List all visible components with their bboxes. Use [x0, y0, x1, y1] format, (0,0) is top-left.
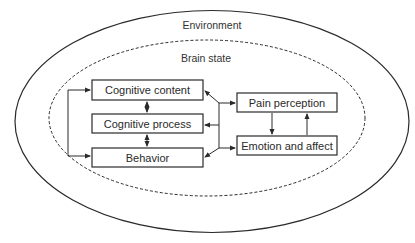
pain-model-diagram: Environment Brain state Cognitive conten…: [0, 0, 415, 243]
arrow-hub-to-cognitive-content: [205, 91, 219, 103]
node-behavior: Behavior: [92, 148, 203, 167]
pain-perception-label: Pain perception: [249, 97, 325, 109]
brain-state-label: Brain state: [181, 52, 231, 64]
cognitive-process-label: Cognitive process: [104, 118, 192, 130]
arrow-left-bracket-bottom: [68, 123, 90, 156]
behavior-label: Behavior: [126, 152, 170, 164]
node-cognitive-content: Cognitive content: [92, 80, 203, 100]
node-cognitive-process: Cognitive process: [92, 114, 203, 133]
node-pain-perception: Pain perception: [237, 93, 337, 112]
cognitive-content-label: Cognitive content: [105, 84, 190, 96]
arrow-hub-to-behavior: [205, 148, 219, 157]
environment-region: [15, 11, 409, 233]
node-emotion-affect: Emotion and affect: [237, 136, 337, 155]
arrow-left-bracket-top: [68, 90, 90, 123]
emotion-affect-label: Emotion and affect: [241, 140, 333, 152]
environment-label: Environment: [183, 19, 242, 31]
